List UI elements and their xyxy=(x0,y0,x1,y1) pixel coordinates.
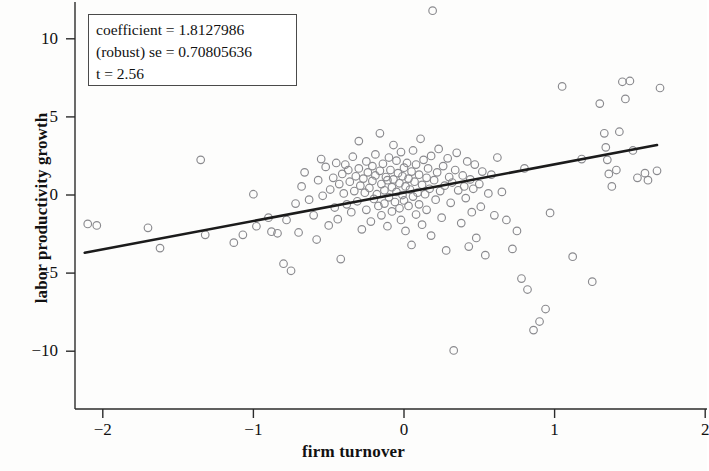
scatter-point xyxy=(459,172,467,180)
x-axis-ticks xyxy=(103,409,705,418)
scatter-point xyxy=(412,161,420,169)
scatter-point xyxy=(477,203,485,211)
scatter-point xyxy=(405,202,413,210)
x-tick-label: 1 xyxy=(550,420,559,440)
scatter-point xyxy=(653,167,661,175)
scatter-point xyxy=(358,226,366,234)
scatter-point xyxy=(430,176,438,184)
scatter-point xyxy=(387,166,395,174)
scatter-point xyxy=(292,200,300,208)
scatter-point xyxy=(347,208,355,216)
scatter-point xyxy=(314,176,322,184)
scatter-point xyxy=(605,170,613,178)
scatter-point xyxy=(463,158,471,166)
scatter-point xyxy=(518,275,526,283)
scatter-point xyxy=(588,278,596,286)
scatter-point xyxy=(366,184,374,192)
scatter-point xyxy=(144,224,152,232)
scatter-point xyxy=(546,209,554,217)
scatter-point xyxy=(305,196,313,204)
scatter-point xyxy=(84,220,92,228)
scatter-point xyxy=(408,241,416,249)
scatter-point xyxy=(415,171,423,179)
y-tick-label: 10 xyxy=(0,29,58,49)
scatter-point xyxy=(604,156,612,164)
scatter-point xyxy=(476,180,484,188)
scatter-point xyxy=(397,148,405,156)
scatter-point xyxy=(337,255,345,263)
scatter-point xyxy=(381,187,389,195)
x-axis-label: firm turnover xyxy=(0,442,707,462)
scatter-point xyxy=(616,128,624,136)
scatter-point xyxy=(457,219,465,227)
scatter-point xyxy=(388,208,396,216)
regression-line xyxy=(85,145,657,253)
scatter-point xyxy=(509,245,517,253)
scatter-point xyxy=(326,186,334,194)
scatter-point xyxy=(340,190,348,198)
scatter-point xyxy=(619,78,627,86)
scatter-point xyxy=(433,169,441,177)
scatter-point xyxy=(197,156,205,164)
scatter-point xyxy=(301,169,309,177)
scatter-point xyxy=(367,218,375,226)
x-tick-label: 0 xyxy=(400,420,409,440)
scatter-point xyxy=(427,152,435,160)
scatter-point xyxy=(310,212,318,220)
scatter-point xyxy=(530,326,538,334)
scatter-point xyxy=(439,162,447,170)
scatter-point xyxy=(472,234,480,242)
scatter-point xyxy=(313,236,321,244)
scatter-point xyxy=(498,188,506,196)
scatter-point xyxy=(93,222,101,230)
scatter-point xyxy=(384,222,392,230)
scatter-point xyxy=(427,232,435,240)
scatter-point xyxy=(450,347,458,355)
scatter-point xyxy=(429,7,437,15)
scatter-point xyxy=(385,154,393,162)
scatter-point xyxy=(462,194,470,202)
scatter-point xyxy=(363,206,371,214)
scatter-point xyxy=(602,144,610,152)
scatter-point xyxy=(355,137,363,145)
scatter-point xyxy=(420,156,428,164)
scatter-point xyxy=(376,130,384,138)
scatter-point xyxy=(644,176,652,184)
scatter-point xyxy=(393,157,401,165)
scatter-point xyxy=(626,77,634,85)
scatter-point xyxy=(613,166,621,174)
scatter-point xyxy=(479,168,487,176)
scatter-point xyxy=(503,216,511,224)
scatter-point xyxy=(411,178,419,186)
scatter-point xyxy=(352,172,360,180)
scatter-point xyxy=(283,216,291,224)
scatter-point xyxy=(634,174,642,182)
scatter-point xyxy=(423,206,431,214)
scatter-point xyxy=(349,153,357,161)
x-tick-label: −1 xyxy=(244,420,262,440)
scatter-point xyxy=(201,231,209,239)
scatter-point xyxy=(379,160,387,168)
scatter-point xyxy=(468,208,476,216)
scatter-point xyxy=(536,318,544,326)
scatter-point xyxy=(322,163,330,171)
scatter-point xyxy=(250,190,258,198)
scatter-point xyxy=(415,201,423,209)
scatter-point xyxy=(402,227,410,235)
scatter-point xyxy=(444,154,452,162)
scatter-point xyxy=(482,251,490,259)
scatter-point xyxy=(355,165,363,173)
scatter-point xyxy=(346,178,354,186)
scatter-point xyxy=(253,222,261,230)
scatter-point xyxy=(298,183,306,191)
scatter-point xyxy=(332,159,340,167)
scatter-point xyxy=(656,84,664,92)
scatter-point xyxy=(485,190,493,198)
scatter-point xyxy=(357,182,365,190)
scatter-point xyxy=(239,231,247,239)
y-tick-label: 0 xyxy=(0,185,58,205)
scatter-point xyxy=(156,244,164,252)
scatter-point xyxy=(524,286,532,294)
scatter-point xyxy=(641,169,649,177)
